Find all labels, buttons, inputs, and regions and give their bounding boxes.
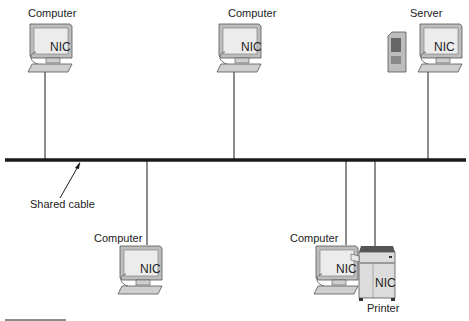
nic-label: NIC (336, 262, 357, 276)
node-label-bottom-middle: Computer (290, 232, 338, 244)
node-label-top-left: Computer (28, 7, 76, 19)
node-label-top-right: Server (410, 7, 442, 19)
nic-label: NIC (434, 40, 455, 54)
nic-label: NIC (50, 40, 71, 54)
nic-label: NIC (140, 262, 161, 276)
node-label-bottom-left: Computer (94, 232, 142, 244)
nic-label: NIC (241, 40, 262, 54)
node-label-top-middle: Computer (228, 7, 276, 19)
nic-label: NIC (375, 276, 396, 290)
shared-cable-label: Shared cable (30, 198, 95, 210)
node-label-bottom-right: Printer (367, 302, 399, 314)
